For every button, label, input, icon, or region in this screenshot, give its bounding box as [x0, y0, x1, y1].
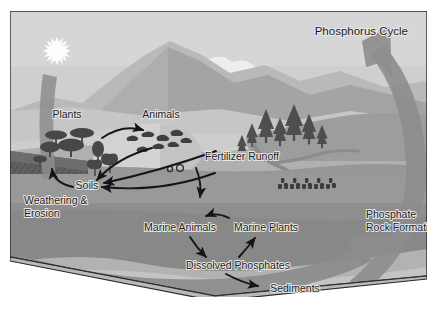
figure-title: Phosphorus Cycle: [315, 25, 408, 37]
label-marine-plants: Marine Plants: [234, 221, 298, 233]
sun: [43, 37, 71, 65]
label-phosphate-rock-line1: Phosphate: [366, 208, 416, 220]
label-plants: Plants: [52, 108, 81, 120]
label-fertilizer-runoff: Fertilizer Runoff: [205, 150, 279, 162]
label-animals: Animals: [142, 108, 179, 120]
label-dissolved-phosphates: Dissolved Phosphates: [186, 259, 290, 271]
label-marine-animals: Marine Animals: [144, 221, 216, 233]
label-sediments: Sediments: [270, 282, 320, 294]
diagram-frame: Phosphorus Cycle Plants Animals Fertiliz…: [10, 11, 427, 297]
label-soils: Soils: [76, 179, 99, 191]
label-phosphate-rock-line2: Rock Formation: [366, 221, 427, 233]
label-weathering-line2: Erosion: [24, 207, 60, 219]
label-weathering-line1: Weathering &: [24, 194, 87, 206]
phosphorus-cycle-figure: Phosphorus Cycle Plants Animals Fertiliz…: [0, 0, 437, 316]
phosphorus-cycle-illustration: Phosphorus Cycle Plants Animals Fertiliz…: [10, 11, 427, 297]
